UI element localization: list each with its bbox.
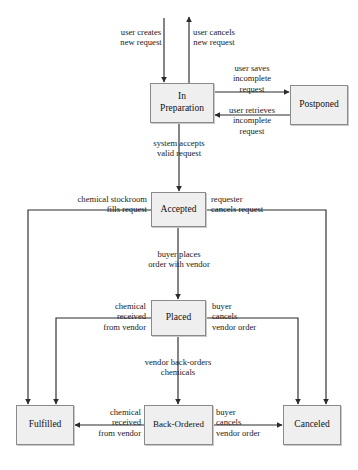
state-placed[interactable]: Placed [151,300,206,336]
edge-label-t-retrieve-incomplete: user retrieves incomplete request [215,105,289,136]
edge-label-t-accept: system accepts valid request [113,138,245,159]
edge-label-t-create: user creates new request [108,27,174,48]
state-accepted[interactable]: Accepted [151,192,206,227]
state-postponed[interactable]: Postponed [290,85,348,125]
state-diagram: In Preparation Postponed Accepted Placed… [0,0,358,470]
edge-label-t-backorder: vendor back-orders chemicals [107,357,249,378]
state-in-preparation[interactable]: In Preparation [150,83,214,123]
edge-label-t-backordered-received: chemical received from vendor [77,407,141,438]
edge-label-t-requester-cancels: requester cancels request [211,194,329,215]
state-label-in-preparation: In Preparation [160,91,204,115]
state-label-postponed: Postponed [299,99,339,111]
state-fulfilled[interactable]: Fulfilled [16,405,74,445]
edge-label-t-stockroom-fills: chemical stockroom fills request [25,194,147,215]
edge-label-t-cancel-new: user cancels new request [178,27,250,48]
edge-label-t-placed-received: chemical received from vendor [79,301,146,332]
edge-label-t-backordered-cancel: buyer cancels vendor order [216,407,292,438]
state-label-back-ordered: Back-Ordered [153,419,204,430]
edge-layer [0,0,358,470]
state-label-canceled: Canceled [294,419,329,431]
state-back-ordered[interactable]: Back-Ordered [144,405,213,445]
edge-label-t-save-incomplete: user saves incomplete request [216,63,288,94]
state-label-fulfilled: Fulfilled [29,419,62,431]
edge-label-t-buyer-places: buyer places order with vendor [111,249,247,270]
edge-label-t-placed-cancel: buyer cancels vendor order [212,301,290,332]
state-label-placed: Placed [166,312,191,324]
state-label-accepted: Accepted [161,204,197,216]
